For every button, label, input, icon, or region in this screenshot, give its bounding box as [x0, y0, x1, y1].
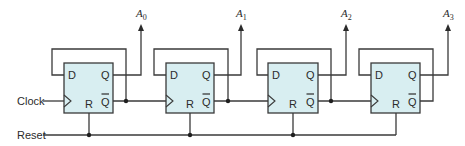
pin-qbar: Q	[408, 96, 417, 108]
arrow-up-icon	[445, 24, 451, 31]
output-label-0: A0	[135, 7, 147, 22]
reset-input: Reset	[17, 113, 396, 141]
pin-qbar: Q	[202, 96, 211, 108]
junction-dot	[87, 133, 91, 137]
arrow-up-icon	[138, 24, 144, 31]
clock-input: Clock	[17, 95, 64, 107]
clock-label: Clock	[17, 95, 45, 107]
pin-q: Q	[101, 69, 110, 81]
output-wire-0	[113, 28, 141, 75]
arrow-up-icon	[238, 24, 244, 31]
pin-q: Q	[202, 69, 211, 81]
pin-qbar: Q	[306, 96, 315, 108]
pin-r: R	[392, 98, 400, 110]
output-label-1: A1	[235, 7, 247, 22]
pin-r: R	[85, 98, 93, 110]
pin-d: D	[170, 69, 178, 81]
output-wire-2	[318, 28, 346, 75]
output-label-3: A3	[442, 7, 454, 22]
arrow-up-icon	[343, 24, 349, 31]
flip-flop-3: D Q Q R A3	[359, 7, 454, 113]
pin-r: R	[289, 98, 297, 110]
flip-flop-0: D Q Q R A0	[52, 7, 166, 137]
output-label-2: A2	[340, 7, 352, 22]
ripple-counter-diagram: Clock Reset D Q Q R A0 D Q Q R	[0, 0, 465, 146]
pin-d: D	[272, 69, 280, 81]
output-wire-3	[420, 28, 448, 75]
pin-d: D	[375, 69, 383, 81]
flip-flop-1: D Q Q R A1	[154, 7, 268, 137]
pin-qbar: Q	[101, 96, 110, 108]
pin-r: R	[186, 98, 194, 110]
junction-dot	[291, 133, 295, 137]
junction-dot	[329, 99, 333, 103]
reset-label: Reset	[17, 129, 46, 141]
pin-q: Q	[306, 69, 315, 81]
junction-dot	[124, 99, 128, 103]
flip-flop-2: D Q Q R A2	[257, 7, 371, 137]
junction-dot	[226, 99, 230, 103]
pin-d: D	[68, 69, 76, 81]
pin-q: Q	[408, 69, 417, 81]
junction-dot	[188, 133, 192, 137]
